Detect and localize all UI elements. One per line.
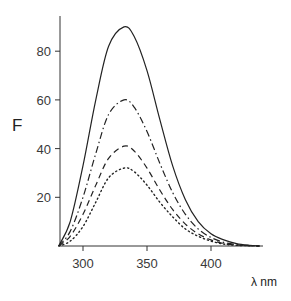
y-axis-title: F (12, 116, 22, 135)
x-ticks: 300350400 (72, 246, 222, 271)
x-axis-title: λ nm (251, 275, 277, 289)
x-tick-label: 350 (136, 256, 158, 271)
fluorescence-chart: 20406080 300350400 F λ nm (0, 0, 291, 301)
curve-solid (59, 26, 260, 246)
y-tick-label: 60 (37, 93, 51, 108)
x-tick-label: 300 (72, 256, 94, 271)
y-tick-label: 20 (37, 190, 51, 205)
curves (59, 26, 260, 246)
x-tick-label: 400 (200, 256, 222, 271)
y-ticks: 20406080 (37, 44, 60, 205)
y-tick-label: 80 (37, 44, 51, 59)
curve-dash-dot (59, 100, 260, 246)
y-tick-label: 40 (37, 142, 51, 157)
